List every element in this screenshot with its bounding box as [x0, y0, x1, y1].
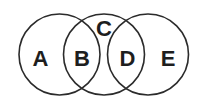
label-c: C	[96, 16, 112, 41]
label-b: B	[74, 46, 90, 71]
label-d: D	[120, 46, 136, 71]
venn-diagram: A B C D E	[0, 0, 200, 105]
label-e: E	[161, 46, 176, 71]
label-a: A	[33, 46, 49, 71]
